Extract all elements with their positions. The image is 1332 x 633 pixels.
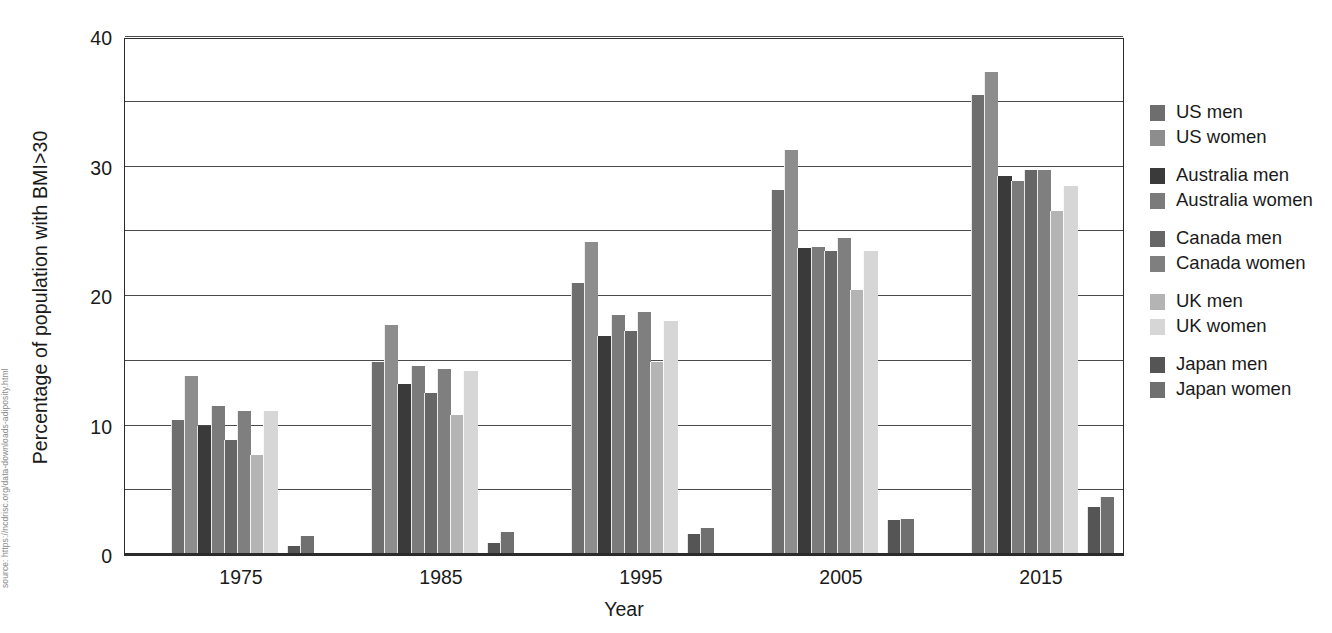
bar-uk-men-1995 — [650, 362, 664, 555]
bar-canada-men-1995 — [624, 331, 638, 555]
legend-label: Australia women — [1176, 191, 1313, 210]
bar-australia-men-1985 — [397, 384, 411, 555]
x-axis-baseline — [125, 553, 1123, 555]
bar-australia-women-1975 — [211, 406, 225, 555]
chart-legend: US menUS womenAustralia menAustralia wom… — [1150, 100, 1325, 415]
legend-swatch-icon — [1150, 256, 1165, 272]
bar-group-1985 — [325, 39, 525, 555]
bar-japan-women-2005 — [900, 519, 914, 555]
bar-us-women-1975 — [184, 376, 198, 555]
bar-japan-women-1985 — [500, 532, 514, 555]
legend-label: Japan women — [1176, 380, 1291, 399]
bar-uk-men-1985 — [450, 415, 464, 555]
bar-canada-men-2005 — [824, 251, 838, 555]
bar-uk-women-1985 — [463, 371, 477, 555]
source-note: source: https://ncdrisc.org/data-downloa… — [0, 288, 10, 590]
x-tick-label-2005: 2005 — [819, 566, 862, 589]
bar-canada-men-2015 — [1024, 170, 1038, 555]
bar-australia-men-2005 — [797, 248, 811, 555]
bar-australia-men-2015 — [997, 176, 1011, 555]
legend-label: UK men — [1176, 292, 1243, 311]
chart-plot-area — [124, 38, 1124, 556]
bar-canada-women-1985 — [437, 369, 451, 555]
bar-uk-men-2015 — [1050, 211, 1064, 555]
bar-australia-women-2015 — [1011, 181, 1025, 555]
legend-swatch-icon — [1150, 193, 1165, 209]
legend-item-us-men[interactable]: US men — [1150, 100, 1325, 125]
bar-group-2015 — [925, 39, 1125, 555]
y-tick-label-40: 40 — [60, 27, 112, 50]
bar-japan-men-2005 — [887, 520, 901, 555]
bar-group-1975 — [125, 39, 325, 555]
bar-canada-women-1975 — [237, 411, 251, 555]
y-axis-title-text: Percentage of population with BMI>30 — [30, 130, 53, 464]
y-tick-label-30: 30 — [60, 156, 112, 179]
legend-block-4: Japan menJapan women — [1150, 352, 1325, 402]
legend-item-australia-women[interactable]: Australia women — [1150, 188, 1325, 213]
bar-uk-women-1975 — [263, 411, 277, 555]
bar-us-women-2005 — [784, 150, 798, 555]
legend-swatch-icon — [1150, 294, 1165, 310]
bar-japan-men-2015 — [1087, 507, 1101, 555]
y-axis-title: Percentage of population with BMI>30 — [30, 38, 52, 556]
legend-label: US women — [1176, 128, 1266, 147]
bar-japan-women-2015 — [1100, 497, 1114, 555]
bar-us-men-2005 — [771, 190, 785, 555]
x-tick-label-2015: 2015 — [1019, 566, 1062, 589]
y-tick-label-20: 20 — [60, 286, 112, 309]
legend-item-canada-women[interactable]: Canada women — [1150, 251, 1325, 276]
legend-swatch-icon — [1150, 231, 1165, 247]
legend-item-australia-men[interactable]: Australia men — [1150, 163, 1325, 188]
legend-swatch-icon — [1150, 105, 1165, 121]
bar-us-women-2015 — [984, 72, 998, 555]
x-axis-title: Year — [124, 598, 1124, 621]
legend-block-0: US menUS women — [1150, 100, 1325, 150]
bar-us-women-1995 — [584, 242, 598, 555]
bar-canada-women-2015 — [1037, 170, 1051, 555]
legend-label: Japan men — [1176, 355, 1268, 374]
legend-item-japan-women[interactable]: Japan women — [1150, 377, 1325, 402]
legend-item-us-women[interactable]: US women — [1150, 125, 1325, 150]
x-tick-label-1975: 1975 — [219, 566, 262, 589]
bar-australia-women-1995 — [611, 315, 625, 555]
gridline-40 — [125, 36, 1123, 37]
bar-us-men-1995 — [571, 283, 585, 555]
y-tick-label-0: 0 — [60, 545, 112, 568]
bar-australia-women-1985 — [411, 366, 425, 555]
y-tick-label-10: 10 — [60, 415, 112, 438]
legend-item-canada-men[interactable]: Canada men — [1150, 226, 1325, 251]
legend-item-uk-women[interactable]: UK women — [1150, 314, 1325, 339]
bar-group-1995 — [525, 39, 725, 555]
bar-japan-women-1995 — [700, 528, 714, 555]
bar-us-men-2015 — [971, 95, 985, 555]
legend-item-uk-men[interactable]: UK men — [1150, 289, 1325, 314]
bar-uk-women-2005 — [863, 251, 877, 555]
legend-swatch-icon — [1150, 357, 1165, 373]
legend-swatch-icon — [1150, 382, 1165, 398]
legend-item-japan-men[interactable]: Japan men — [1150, 352, 1325, 377]
bar-australia-women-2005 — [811, 247, 825, 555]
bar-uk-men-1975 — [250, 455, 264, 555]
bar-canada-men-1975 — [224, 440, 238, 555]
legend-label: Canada men — [1176, 229, 1282, 248]
legend-label: Australia men — [1176, 166, 1289, 185]
x-tick-label-1985: 1985 — [419, 566, 462, 589]
bar-canada-women-2005 — [837, 238, 851, 555]
legend-swatch-icon — [1150, 319, 1165, 335]
legend-label: US men — [1176, 103, 1243, 122]
bar-group-2005 — [725, 39, 925, 555]
bar-canada-women-1995 — [637, 312, 651, 555]
x-tick-label-1995: 1995 — [619, 566, 662, 589]
bar-us-men-1985 — [371, 362, 385, 555]
legend-swatch-icon — [1150, 168, 1165, 184]
bar-australia-men-1975 — [197, 426, 211, 556]
legend-swatch-icon — [1150, 130, 1165, 146]
bar-uk-women-2015 — [1063, 186, 1077, 555]
bar-us-men-1975 — [171, 420, 185, 555]
bar-uk-men-2005 — [850, 290, 864, 555]
y-axis-tick-labels: 010203040 — [60, 38, 112, 556]
legend-label: UK women — [1176, 317, 1266, 336]
bars-layer — [125, 39, 1123, 555]
legend-block-2: Canada menCanada women — [1150, 226, 1325, 276]
legend-label: Canada women — [1176, 254, 1306, 273]
